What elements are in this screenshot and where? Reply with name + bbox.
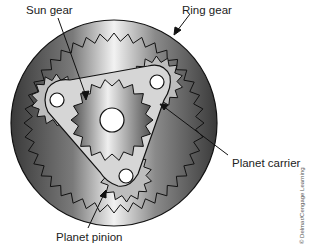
arrowhead-icon	[174, 27, 181, 35]
planetary-gear-diagram	[0, 0, 309, 249]
label-ring-gear: Ring gear	[182, 5, 232, 17]
carrier-pin-hole	[119, 169, 133, 183]
carrier-pin-hole	[150, 75, 164, 89]
label-sun-gear: Sun gear	[26, 5, 73, 17]
label-planet-carrier: Planet carrier	[232, 158, 300, 170]
label-planet-pinion: Planet pinion	[56, 232, 123, 244]
carrier-pin-hole	[50, 93, 64, 107]
copyright-credit: © Delmar/Cengage Learning	[299, 168, 305, 244]
